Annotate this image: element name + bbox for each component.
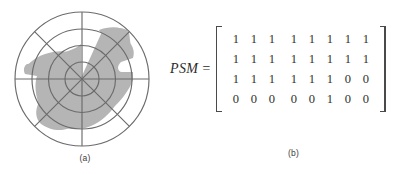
matrix-cell: 1 (227, 29, 245, 49)
matrix-cell: 1 (339, 49, 357, 69)
matrix-cell: 1 (263, 49, 281, 69)
table-row: 1 1 1 1 1 1 1 1 (227, 29, 375, 49)
matrix-cell: 1 (245, 49, 263, 69)
table-row: 1 1 1 1 1 1 1 1 (227, 49, 375, 69)
matrix-cell: 1 (263, 29, 281, 49)
matrix-cell: 1 (321, 89, 339, 109)
matrix-cell: 1 (357, 49, 375, 69)
polar-coverage-plot (9, 6, 155, 152)
panel-a: (a) (0, 0, 170, 175)
matrix-cell: 1 (285, 69, 303, 89)
matrix-cell: 1 (303, 49, 321, 69)
matrix-cell: 0 (245, 89, 263, 109)
matrix-label: PSM (170, 61, 201, 77)
matrix-cell: 1 (303, 69, 321, 89)
matrix-cell: 1 (303, 29, 321, 49)
matrix-cell: 1 (321, 49, 339, 69)
matrix-cell: 1 (321, 69, 339, 89)
matrix-cell: 0 (263, 89, 281, 109)
matrix-body: 1 1 1 1 1 1 1 1 1 1 1 1 1 (216, 26, 386, 112)
caption-b: (b) (170, 148, 399, 158)
panel-b: PSM = 1 1 1 1 1 1 1 1 (170, 0, 399, 175)
matrix-cell: 0 (339, 89, 357, 109)
matrix-cell: 1 (321, 29, 339, 49)
matrix-cell: 1 (245, 69, 263, 89)
matrix-cell: 1 (227, 49, 245, 69)
matrix-cell: 0 (357, 89, 375, 109)
matrix-cell: 0 (339, 69, 357, 89)
matrix-grid: 1 1 1 1 1 1 1 1 1 1 1 1 1 (223, 26, 379, 112)
matrix-expression: PSM = 1 1 1 1 1 1 1 1 (170, 26, 386, 112)
caption-a: (a) (0, 153, 170, 163)
matrix-cell: 1 (227, 69, 245, 89)
figure-container: (a) PSM = 1 1 1 1 1 1 1 1 (0, 0, 399, 175)
matrix-cell: 0 (357, 69, 375, 89)
matrix-cell: 1 (339, 29, 357, 49)
matrix-cell: 1 (357, 29, 375, 49)
matrix-cell: 0 (227, 89, 245, 109)
polar-spokes (15, 12, 149, 146)
table-row: 0 0 0 0 0 1 0 0 (227, 89, 375, 109)
bracket-right-icon (379, 26, 386, 112)
matrix-cell: 0 (303, 89, 321, 109)
equals-sign: = (201, 61, 215, 77)
matrix-cell: 0 (285, 89, 303, 109)
matrix-cell: 1 (245, 29, 263, 49)
matrix-cell: 1 (263, 69, 281, 89)
matrix-cell: 1 (285, 29, 303, 49)
table-row: 1 1 1 1 1 1 0 0 (227, 69, 375, 89)
matrix-cell: 1 (285, 49, 303, 69)
bracket-left-icon (216, 26, 223, 112)
